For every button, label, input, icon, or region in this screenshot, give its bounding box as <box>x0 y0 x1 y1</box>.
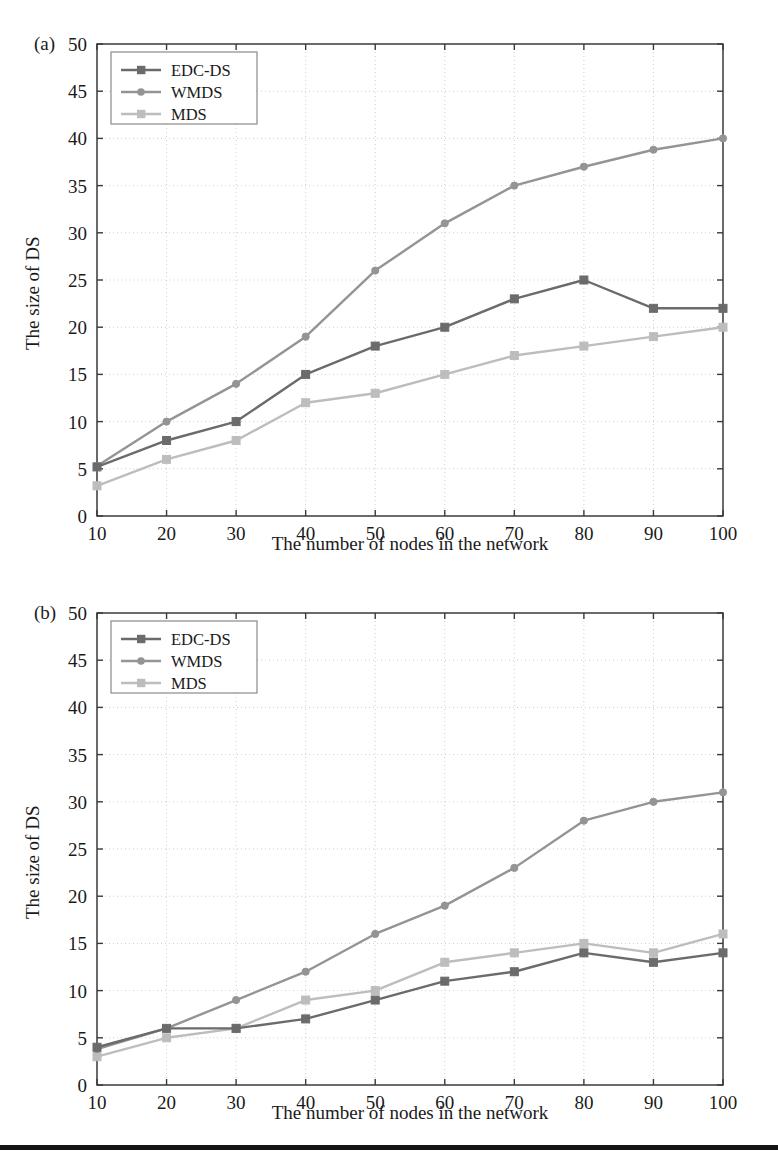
data-point-marker <box>719 304 727 312</box>
y-tick-label: 30 <box>68 223 87 244</box>
data-point-marker <box>233 380 240 387</box>
y-tick-label: 40 <box>68 697 87 718</box>
legend-marker-edc-ds <box>137 635 145 643</box>
data-point-marker <box>302 399 310 407</box>
legend-marker-wmds <box>137 657 145 665</box>
data-point-marker <box>163 1034 171 1042</box>
chart-panel-b: (b) The size of DS 051015202530354045501… <box>0 569 778 1134</box>
y-tick-label: 10 <box>68 981 87 1002</box>
y-tick-label: 25 <box>68 839 87 860</box>
data-point-marker <box>232 1024 240 1032</box>
line-chart-b: 0510152025303540455010203040506070809010… <box>0 569 778 1129</box>
plot-area-b: 0510152025303540455010203040506070809010… <box>0 569 778 1129</box>
data-point-marker <box>441 902 448 909</box>
series-line <box>97 280 723 467</box>
figure-page: (a) The size of DS 051015202530354045501… <box>0 0 778 1172</box>
data-point-marker <box>511 864 518 871</box>
series-wmds <box>93 789 726 1053</box>
data-point-marker <box>93 1043 101 1051</box>
data-point-marker <box>441 370 449 378</box>
data-point-marker <box>649 333 657 341</box>
y-tick-label: 45 <box>68 81 87 102</box>
data-point-marker <box>232 436 240 444</box>
series-line <box>97 792 723 1049</box>
legend-label-mds: MDS <box>171 105 207 124</box>
data-point-marker <box>302 333 309 340</box>
legend-label-wmds: WMDS <box>171 83 222 102</box>
data-point-marker <box>580 817 587 824</box>
data-point-marker <box>163 418 170 425</box>
data-point-marker <box>441 323 449 331</box>
y-tick-label: 45 <box>68 650 87 671</box>
data-point-marker <box>372 267 379 274</box>
data-point-marker <box>302 370 310 378</box>
legend-marker-mds <box>137 679 145 687</box>
legend-label-wmds: WMDS <box>171 652 222 671</box>
data-point-marker <box>719 949 727 957</box>
legend: EDC-DSWMDSMDS <box>111 52 257 124</box>
data-point-marker <box>302 996 310 1004</box>
data-point-marker <box>371 996 379 1004</box>
y-tick-label: 35 <box>68 745 87 766</box>
series-wmds <box>93 135 726 470</box>
legend-label-edc-ds: EDC-DS <box>171 61 231 80</box>
legend-label-mds: MDS <box>171 674 207 693</box>
legend-marker-edc-ds <box>137 66 145 74</box>
data-point-marker <box>510 949 518 957</box>
series-line <box>97 138 723 466</box>
data-point-marker <box>511 182 518 189</box>
data-point-marker <box>510 968 518 976</box>
y-tick-label: 0 <box>78 506 88 527</box>
y-tick-label: 5 <box>78 1028 88 1049</box>
data-point-marker <box>441 977 449 985</box>
x-axis-title-b: The number of nodes in the network <box>97 1102 723 1124</box>
y-tick-label: 5 <box>78 459 88 480</box>
y-tick-label: 40 <box>68 128 87 149</box>
series-edc-ds <box>93 276 727 471</box>
data-point-marker <box>719 930 727 938</box>
data-point-marker <box>649 958 657 966</box>
legend-marker-mds <box>137 110 145 118</box>
data-point-marker <box>580 949 588 957</box>
data-point-marker <box>719 323 727 331</box>
legend: EDC-DSWMDSMDS <box>111 621 257 693</box>
data-point-marker <box>510 295 518 303</box>
y-tick-label: 15 <box>68 933 87 954</box>
data-point-marker <box>93 482 101 490</box>
data-point-marker <box>580 276 588 284</box>
x-axis-title-a: The number of nodes in the network <box>97 533 723 555</box>
legend-label-edc-ds: EDC-DS <box>171 630 231 649</box>
data-point-marker <box>580 342 588 350</box>
data-point-marker <box>371 342 379 350</box>
data-point-marker <box>650 146 657 153</box>
footer-rule <box>0 1145 778 1150</box>
plot-area-a: 0510152025303540455010203040506070809010… <box>0 0 778 560</box>
chart-panel-a: (a) The size of DS 051015202530354045501… <box>0 0 778 565</box>
data-point-marker <box>650 798 657 805</box>
series-line <box>97 327 723 486</box>
y-tick-label: 50 <box>68 603 87 624</box>
series-line <box>97 953 723 1047</box>
data-point-marker <box>233 996 240 1003</box>
data-point-marker <box>163 1024 171 1032</box>
data-point-marker <box>163 455 171 463</box>
y-tick-label: 50 <box>68 34 87 55</box>
data-point-marker <box>649 949 657 957</box>
series-line <box>97 934 723 1057</box>
legend-marker-wmds <box>137 88 145 96</box>
series-mds <box>93 323 727 490</box>
data-point-marker <box>163 436 171 444</box>
data-point-marker <box>371 987 379 995</box>
y-tick-label: 35 <box>68 176 87 197</box>
y-tick-label: 20 <box>68 317 87 338</box>
data-point-marker <box>302 968 309 975</box>
data-point-marker <box>93 1053 101 1061</box>
data-point-marker <box>649 304 657 312</box>
line-chart-a: 0510152025303540455010203040506070809010… <box>0 0 778 560</box>
data-point-marker <box>371 389 379 397</box>
y-tick-label: 10 <box>68 412 87 433</box>
y-tick-label: 25 <box>68 270 87 291</box>
data-point-marker <box>372 930 379 937</box>
data-point-marker <box>441 958 449 966</box>
data-point-marker <box>580 163 587 170</box>
